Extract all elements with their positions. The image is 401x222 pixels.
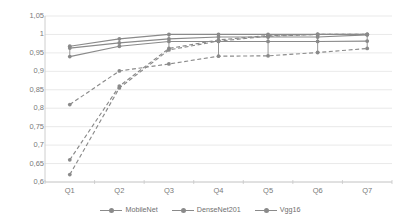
- data-point: [117, 86, 121, 90]
- legend-marker-icon: [100, 206, 122, 214]
- series-layer: [68, 33, 369, 177]
- y-axis-tick-label: 0,7: [0, 141, 44, 149]
- legend-label: MobileNet: [125, 206, 157, 214]
- y-axis-tick-label: 1,05: [0, 12, 44, 20]
- legend-item-densenet201[interactable]: DenseNet201: [172, 206, 241, 214]
- x-axis-tick-label: Q3: [149, 186, 189, 195]
- legend-marker-icon: [255, 206, 277, 214]
- y-axis-tick-label: 0,8: [0, 104, 44, 112]
- y-axis-tick-label: 0,75: [0, 123, 44, 131]
- data-point: [167, 62, 171, 66]
- x-axis-tick-label: Q2: [99, 186, 139, 195]
- data-point: [68, 103, 72, 107]
- y-axis-tick-label: 1: [0, 30, 44, 38]
- legend-label: DenseNet201: [197, 206, 241, 214]
- x-axis-tick-label: Q5: [248, 186, 288, 195]
- legend-item-mobilenet[interactable]: MobileNet: [100, 206, 157, 214]
- legend-marker-icon: [172, 206, 194, 214]
- x-axis-tick-label: Q6: [298, 186, 338, 195]
- data-point: [68, 173, 72, 177]
- line-chart: 1,0510,950,90,850,80,750,70,650,6 Q1Q2Q3…: [0, 0, 401, 222]
- data-point: [117, 69, 121, 73]
- x-axis-labels: Q1Q2Q3Q4Q5Q6Q7: [0, 186, 401, 198]
- y-axis-tick-label: 0,85: [0, 86, 44, 94]
- data-point: [68, 158, 72, 162]
- y-axis-tick-label: 0,65: [0, 160, 44, 168]
- x-axis-tick-label: Q1: [50, 186, 90, 195]
- y-axis-tick-label: 0,9: [0, 67, 44, 75]
- legend-item-vgg16[interactable]: Vgg16: [255, 206, 301, 214]
- legend-label: Vgg16: [280, 206, 301, 214]
- chart-legend: MobileNetDenseNet201Vgg16: [0, 203, 401, 217]
- x-axis-tick-label: Q4: [199, 186, 239, 195]
- y-axis-tick-label: 0,95: [0, 49, 44, 57]
- y-axis-labels: 1,0510,950,90,850,80,750,70,650,6: [0, 0, 44, 200]
- x-axis-tick-label: Q7: [347, 186, 387, 195]
- y-axis-tick-label: 0,6: [0, 178, 44, 186]
